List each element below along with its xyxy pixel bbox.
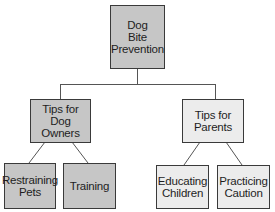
node-label: Tips for Dog Owners [31,103,90,139]
educating-connector [184,142,200,165]
node-educating-children: Educating Children [156,165,209,209]
root-label: Dog Bite Prevention [111,19,164,55]
node-label: Tips for Parents [194,109,232,133]
node-training: Training [63,163,116,209]
tree-diagram: Dog Bite Prevention Tips for Dog Owners … [0,0,275,212]
restraining-connector [29,142,45,163]
root-node: Dog Bite Prevention [110,5,165,69]
node-tips-parents: Tips for Parents [182,99,244,143]
node-restraining-pets: Restraining Pets [4,163,56,209]
node-label: Restraining Pets [2,174,58,198]
node-label: Training [70,180,110,192]
caution-connector [226,142,242,165]
training-connector [72,142,88,163]
node-label: Practicing Caution [219,175,268,199]
node-label: Educating Children [158,175,207,199]
node-tips-dog-owners: Tips for Dog Owners [30,99,91,143]
node-practicing-caution: Practicing Caution [217,165,270,209]
